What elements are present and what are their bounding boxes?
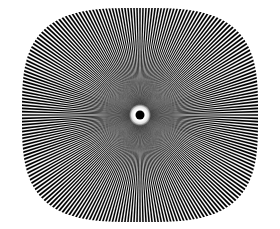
figure-root: Radial starburst / Siemens star test pat…: [0, 0, 280, 229]
center-dot: [136, 111, 145, 120]
starburst-figure: Radial starburst / Siemens star test pat…: [0, 0, 280, 229]
